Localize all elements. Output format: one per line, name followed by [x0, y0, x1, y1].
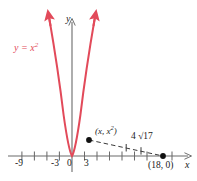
- curve-equation-label: y = x2: [14, 42, 38, 53]
- x-tick-label-neg3: -3: [51, 159, 59, 169]
- curve-equation-base: y = x: [14, 42, 35, 53]
- curve-equation-exponent: 2: [35, 41, 39, 49]
- x-intercept-label: (18, 0): [148, 161, 173, 171]
- point-label-base: (x, x: [95, 126, 111, 136]
- x-tick-label-neg9: -9: [15, 159, 23, 169]
- distance-label: 4 √17: [131, 132, 153, 142]
- parabola-right-arrowhead: [93, 15, 95, 26]
- x-axis-label: x: [185, 160, 189, 170]
- point-on-curve-label: (x, x2): [95, 125, 117, 136]
- x-intercept-point-marker: [160, 153, 166, 159]
- y-axis-label: y: [66, 14, 70, 24]
- parabola-figure: y = x2 y x -9 -3 0 3 (x, x2) 4 √17 (18, …: [0, 0, 197, 181]
- parabola-left-arrowhead: [49, 15, 51, 26]
- point-on-curve-marker: [86, 137, 92, 143]
- x-tick-label-pos3: 3: [84, 159, 89, 169]
- x-tick-label-zero: 0: [67, 159, 72, 169]
- plot-canvas: [0, 0, 197, 181]
- point-label-close: ): [114, 126, 117, 136]
